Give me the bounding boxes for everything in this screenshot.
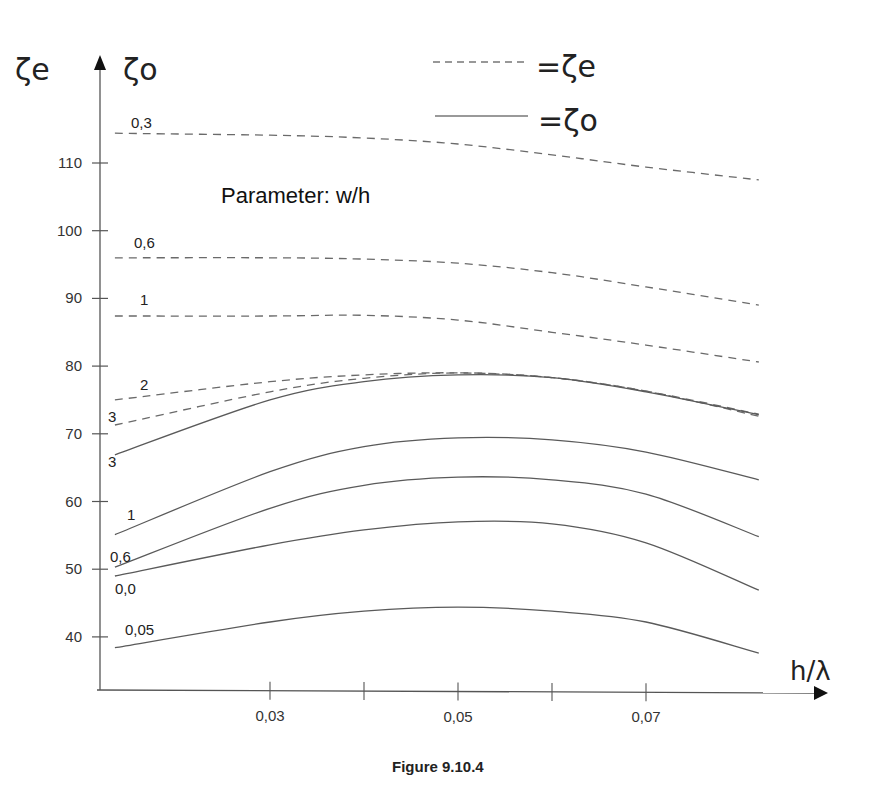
- curve-labels: 0,30,6123310,60,00,05: [108, 114, 155, 638]
- y-axis-symbol-zeta-e: ζe: [15, 52, 50, 87]
- y-tick-label: 70: [65, 425, 82, 442]
- curve-label: 0,6: [134, 234, 155, 251]
- y-axis-arrow-icon: [94, 55, 106, 70]
- curve-solid: [115, 521, 759, 590]
- y-tick-label: 50: [65, 560, 82, 577]
- curve-solid: [115, 477, 759, 567]
- y-tick-label: 80: [65, 357, 82, 374]
- x-axis-symbol: h/λ: [790, 656, 831, 686]
- y-tick-label: 90: [65, 289, 82, 306]
- curve-dashed: [115, 315, 759, 362]
- curves: [115, 133, 759, 653]
- curve-dashed: [115, 258, 759, 305]
- curve-label: 0,0: [115, 580, 136, 597]
- x-ticks: 0,030,050,07: [255, 682, 660, 726]
- curve-label: 1: [127, 506, 135, 523]
- curve-label: 2: [140, 376, 148, 393]
- curve-label: 0,3: [131, 114, 152, 131]
- curve-label: 0,6: [110, 548, 131, 565]
- axes: [94, 55, 828, 700]
- parameter-label: Parameter: w/h: [221, 183, 370, 208]
- curve-solid: [115, 375, 759, 455]
- y-axis-symbol-zeta-o: ζo: [123, 52, 158, 87]
- curve-dashed: [115, 133, 759, 180]
- y-tick-label: 40: [65, 628, 82, 645]
- x-tick-label: 0,05: [443, 708, 472, 725]
- curve-label: 1: [140, 291, 148, 308]
- legend-label-zeta-o: =ζo: [538, 103, 598, 138]
- x-axis: [97, 690, 815, 693]
- figure-caption: Figure 9.10.4: [392, 758, 484, 775]
- curve-label: 0,05: [125, 621, 154, 638]
- curve-dashed: [115, 373, 759, 425]
- curve-label: 3: [108, 408, 116, 425]
- legend-label-zeta-e: =ζe: [536, 49, 596, 84]
- chart-figure: 405060708090100110 0,030,050,07 0,30,612…: [0, 0, 871, 812]
- legend: =ζe =ζo: [433, 49, 598, 138]
- y-tick-label: 110: [58, 154, 82, 171]
- curve-solid: [115, 607, 759, 653]
- curve-dashed: [115, 373, 759, 414]
- y-tick-label: 100: [57, 222, 82, 239]
- curve-solid: [115, 437, 759, 534]
- curve-label: 3: [108, 453, 116, 470]
- y-tick-label: 60: [65, 493, 82, 510]
- x-tick-label: 0,03: [255, 707, 284, 724]
- x-axis-arrow-icon: [814, 686, 828, 700]
- x-tick-label: 0,07: [631, 708, 660, 725]
